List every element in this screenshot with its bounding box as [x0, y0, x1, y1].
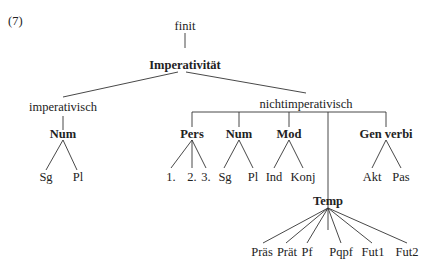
node-pers-1: 1. [166, 170, 175, 184]
node-pers-2: 2. [187, 170, 196, 184]
node-temp: Temp [313, 194, 343, 208]
node-temp-praes: Präs [251, 245, 273, 259]
node-temp-pf: Pf [301, 245, 313, 259]
node-num-pl: Pl [248, 170, 259, 184]
node-num-sg: Sg [218, 170, 232, 184]
node-num: Num [226, 127, 253, 141]
example-number: (7) [8, 14, 23, 28]
node-gv-akt: Akt [363, 170, 382, 184]
node-mod: Mod [277, 127, 302, 141]
feature-tree-diagram: (7) finit Imperativität imperativisch ni… [0, 0, 433, 270]
node-nichtimperativisch: nichtimperativisch [259, 97, 353, 111]
node-imp-sg: Sg [39, 170, 53, 184]
node-temp-fut2: Fut2 [396, 245, 419, 259]
node-imperativisch: imperativisch [29, 100, 98, 114]
node-imp-num: Num [50, 127, 77, 141]
node-imperativitaet: Imperativität [149, 58, 221, 72]
node-temp-fut1: Fut1 [362, 245, 385, 259]
node-pers: Pers [180, 127, 204, 141]
node-imp-pl: Pl [73, 170, 84, 184]
node-gv-pas: Pas [392, 170, 410, 184]
node-temp-pqpf: Pqpf [329, 245, 353, 259]
node-finit: finit [175, 19, 196, 33]
node-temp-praet: Prät [277, 245, 298, 259]
node-mod-konj: Konj [291, 170, 316, 184]
node-mod-ind: Ind [266, 170, 283, 184]
tree-labels: (7) finit Imperativität imperativisch ni… [8, 14, 418, 259]
node-pers-3: 3. [201, 170, 210, 184]
node-gen-verbi: Gen verbi [359, 127, 413, 141]
